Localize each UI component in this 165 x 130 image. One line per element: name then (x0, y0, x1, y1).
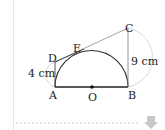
label-B: B (128, 89, 136, 102)
label-AD-length: 4 cm (28, 67, 56, 80)
label-D: D (48, 52, 57, 65)
semicircle-tangent-diagram: A O B C D E 4 cm 9 cm (0, 0, 165, 130)
center-point-O (90, 85, 94, 89)
label-C: C (125, 22, 133, 35)
label-E: E (73, 42, 81, 55)
label-A: A (48, 89, 58, 102)
semicircle (55, 51, 128, 88)
label-BC-length: 9 cm (131, 55, 159, 68)
label-O: O (88, 91, 97, 104)
